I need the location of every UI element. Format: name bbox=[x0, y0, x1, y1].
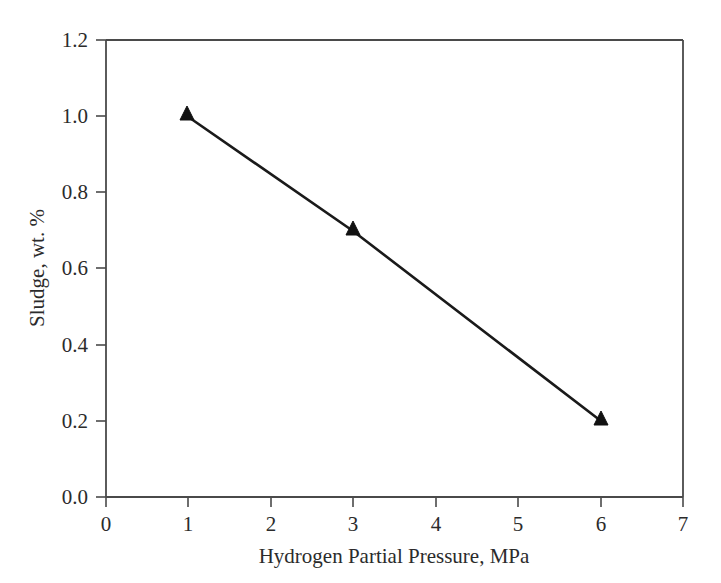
y-tick-label: 0.6 bbox=[62, 256, 88, 280]
x-tick-label: 0 bbox=[101, 512, 112, 536]
y-tick-label: 0.0 bbox=[62, 485, 88, 509]
x-tick-label: 7 bbox=[678, 512, 689, 536]
y-tick-label: 0.8 bbox=[62, 180, 88, 204]
x-tick-label: 3 bbox=[348, 512, 359, 536]
y-tick-label: 0.4 bbox=[62, 333, 89, 357]
y-tick-label: 1.0 bbox=[62, 104, 88, 128]
y-tick-label: 1.2 bbox=[62, 28, 88, 52]
y-tick-label: 0.2 bbox=[62, 409, 88, 433]
x-tick-label: 5 bbox=[513, 512, 524, 536]
x-tick-label: 1 bbox=[183, 512, 194, 536]
chart-figure: 1.2 1.0 0.8 0.6 0.4 0.2 0.0 0 1 2 3 4 5 … bbox=[0, 0, 721, 583]
x-axis-title: Hydrogen Partial Pressure, MPa bbox=[259, 544, 530, 568]
x-tick-label: 6 bbox=[596, 512, 607, 536]
chart-background bbox=[0, 0, 721, 583]
x-tick-label: 2 bbox=[266, 512, 277, 536]
y-axis-title: Sludge, wt. % bbox=[25, 209, 49, 327]
line-chart: 1.2 1.0 0.8 0.6 0.4 0.2 0.0 0 1 2 3 4 5 … bbox=[0, 0, 721, 583]
x-tick-label: 4 bbox=[431, 512, 442, 536]
